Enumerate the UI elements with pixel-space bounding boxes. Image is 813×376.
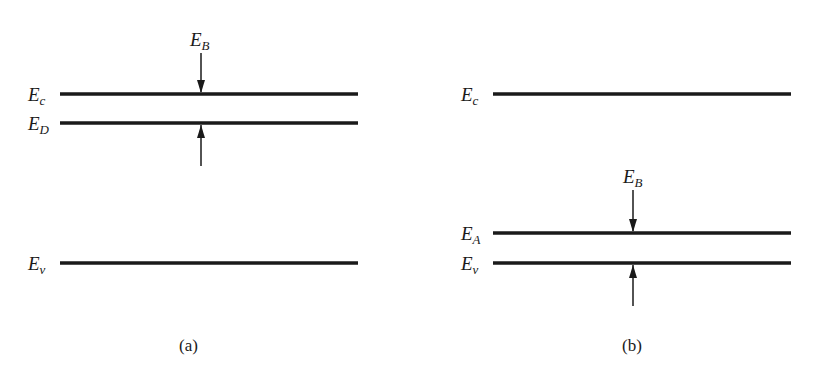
arrowhead-down-icon [197,80,205,93]
band-diagram-canvas [0,0,813,376]
caption-a: (a) [179,337,198,354]
panel-b-diagram [493,94,791,306]
label-ec-a: Ec [28,85,45,107]
label-ev-b: Ev [461,254,478,276]
label-ed: ED [28,114,49,136]
label-ec-b: Ec [461,85,478,107]
arrowhead-down-icon [629,219,637,232]
label-eb-a: EB [190,30,210,52]
label-ea: EA [461,224,481,246]
arrowhead-up-icon [629,265,637,278]
caption-b: (b) [622,337,642,354]
label-eb-b: EB [623,167,643,189]
arrowhead-up-icon [197,125,205,138]
panel-a-diagram [60,53,358,263]
label-ev-a: Ev [28,254,45,276]
